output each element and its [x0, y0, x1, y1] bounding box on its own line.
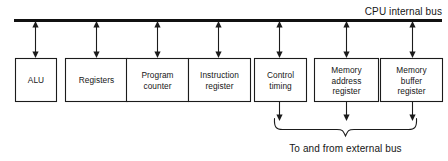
diagram-canvas: CPU internal bus [0, 0, 448, 161]
unit-box-control-timing[interactable]: Control timing [255, 59, 307, 102]
unit-box-label-program-counter-line1: Program [141, 70, 173, 80]
arrow-head-down [276, 114, 282, 121]
arrow-head-down [409, 51, 415, 58]
arrow-head-down [215, 51, 221, 58]
arrow-head-down [154, 51, 160, 58]
unit-box-rect [255, 59, 307, 102]
external-bus-brace [274, 119, 416, 137]
unit-box-rect [127, 59, 189, 102]
arrow-head-down [409, 114, 415, 121]
bus-connector-program-counter [154, 21, 160, 58]
external-connector-memory-buffer-register [409, 102, 415, 122]
arrow-head-down [343, 51, 349, 58]
unit-box-label-memory-address-register-line1: Memory [331, 65, 362, 75]
unit-box-label-alu: ALU [28, 75, 44, 85]
unit-box-registers[interactable]: Registers [66, 59, 128, 102]
bus-connector-memory-buffer-register [409, 21, 415, 58]
arrow-head-down [32, 51, 38, 58]
bus-connector-control-timing [276, 21, 282, 58]
external-connector-control-timing [276, 102, 282, 122]
external-connector-memory-address-register [343, 102, 349, 122]
unit-box-label-registers: Registers [79, 75, 115, 85]
unit-box-alu[interactable]: ALU [16, 59, 57, 102]
unit-box-label-instruction-register-line1: Instruction [200, 70, 239, 80]
bus-connector-instruction-register [215, 21, 221, 58]
unit-box-program-counter[interactable]: Program counter [127, 59, 189, 102]
bus-connector-memory-address-register [343, 21, 349, 58]
arrow-head-down [93, 51, 99, 58]
unit-box-label-instruction-register-line2: register [205, 81, 233, 91]
bus-connector-alu [32, 21, 38, 58]
unit-box-label-memory-address-register-line3: register [332, 86, 360, 96]
unit-box-label-memory-buffer-register-line3: register [397, 86, 425, 96]
unit-box-label-control-timing-line1: Control [267, 70, 294, 80]
unit-box-memory-buffer-register[interactable]: Memory buffer register [381, 59, 443, 102]
unit-box-label-memory-address-register-line2: address [332, 76, 362, 86]
unit-box-label-memory-buffer-register-line1: Memory [396, 65, 427, 75]
arrow-head-down [276, 51, 282, 58]
unit-box-label-program-counter-line2: counter [143, 81, 171, 91]
unit-box-label-memory-buffer-register-line2: buffer [401, 76, 423, 86]
arrow-head-down [343, 114, 349, 121]
unit-box-rect [189, 59, 251, 102]
unit-box-label-control-timing-line2: timing [269, 81, 292, 91]
unit-box-memory-address-register[interactable]: Memory address register [315, 59, 379, 102]
bus-connector-registers [93, 21, 99, 58]
cpu-internal-bus-label: CPU internal bus [365, 6, 442, 17]
unit-box-instruction-register[interactable]: Instruction register [189, 59, 251, 102]
external-bus-label: To and from external bus [289, 143, 401, 154]
cpu-internal-structure-diagram: CPU internal bus [0, 0, 448, 161]
